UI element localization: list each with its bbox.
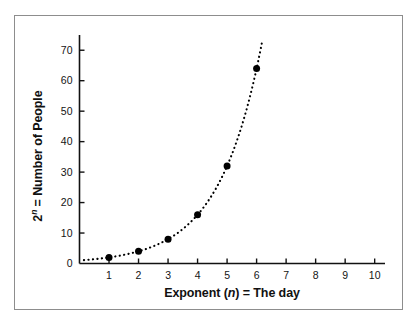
y-tick-label: 10 [61, 227, 73, 239]
x-axis-ticks: 12345678910 [106, 259, 381, 281]
data-point-marker [106, 254, 113, 261]
chart-figure: 2n = Number of People Exponent (n) = The… [0, 0, 418, 324]
y-tick-label: 60 [61, 74, 73, 86]
y-tick-label: 50 [61, 105, 73, 117]
y-tick-label: 30 [61, 166, 73, 178]
y-tick-label: 70 [61, 44, 73, 56]
y-tick-label: 0 [67, 257, 73, 269]
x-tick-label: 7 [283, 269, 289, 281]
x-tick-label: 9 [342, 269, 348, 281]
x-tick-label: 5 [224, 269, 230, 281]
data-point-marker [135, 248, 142, 255]
x-tick-label: 4 [195, 269, 201, 281]
x-tick-label: 2 [136, 269, 142, 281]
fit-curve [84, 40, 263, 261]
data-point-marker [224, 163, 231, 170]
x-tick-label: 1 [106, 269, 112, 281]
x-tick-label: 6 [254, 269, 260, 281]
x-tick-label: 8 [313, 269, 319, 281]
x-tick-label: 10 [369, 269, 381, 281]
x-tick-label: 3 [165, 269, 171, 281]
y-axis-ticks: 010203040506070 [61, 44, 85, 269]
exponential-fit-curve [84, 40, 263, 261]
y-tick-label: 20 [61, 196, 73, 208]
data-points [106, 65, 261, 261]
plot-area: 010203040506070 12345678910 [0, 0, 418, 324]
axis-lines [80, 35, 386, 264]
data-point-marker [165, 236, 172, 243]
y-tick-label: 40 [61, 135, 73, 147]
data-point-marker [253, 65, 260, 72]
data-point-marker [194, 211, 201, 218]
